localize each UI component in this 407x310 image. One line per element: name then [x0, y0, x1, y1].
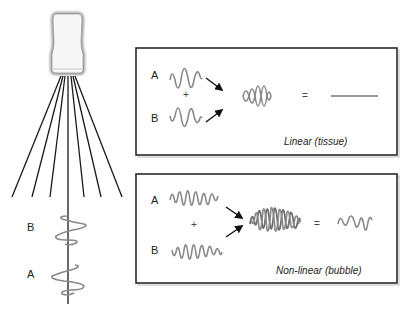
linear-plus: +	[183, 89, 189, 100]
diagram-canvas: B A A + B = Linear (tissue) A + B	[0, 0, 407, 310]
transducer-probe-icon	[52, 14, 83, 73]
nonlinear-panel: A + B = Non-linear (bubble)	[136, 174, 399, 285]
beam-pulse-a: A	[27, 265, 84, 295]
beam-label-a: A	[27, 268, 35, 280]
linear-caption: Linear (tissue)	[284, 136, 347, 147]
nonlinear-caption: Non-linear (bubble)	[276, 265, 362, 276]
linear-label-b: B	[151, 112, 158, 124]
linear-equals: =	[302, 90, 308, 101]
nonlinear-equals: =	[314, 218, 320, 229]
linear-label-a: A	[151, 69, 159, 81]
beam-pulse-b: B	[27, 216, 86, 245]
nonlinear-plus: +	[191, 219, 197, 230]
beam-label-b: B	[27, 221, 34, 233]
linear-panel: A + B = Linear (tissue)	[136, 48, 399, 157]
nonlinear-label-a: A	[151, 194, 159, 206]
nonlinear-label-b: B	[151, 244, 158, 256]
